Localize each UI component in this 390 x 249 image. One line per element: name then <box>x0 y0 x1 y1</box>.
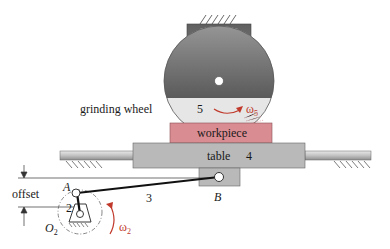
grinding-wheel <box>160 20 280 136</box>
pin-b-label: B <box>214 191 221 203</box>
omega5-subscript: 5 <box>254 109 258 118</box>
guide-rod-right <box>305 151 371 160</box>
table-label: table <box>207 150 230 162</box>
omega5-symbol: ω <box>246 102 254 116</box>
wheel-hole <box>215 77 224 86</box>
grinding-wheel-label: grinding wheel <box>80 103 152 115</box>
wheel-number-label: 5 <box>197 103 203 115</box>
pin-a <box>72 189 80 197</box>
guide-rod-left <box>60 151 134 160</box>
omega2-symbol: ω <box>119 220 127 234</box>
workpiece-label: workpiece <box>197 127 247 139</box>
ground-hatch-right <box>334 161 370 168</box>
o2-label: O2 <box>45 222 58 237</box>
omega2-label: ω2 <box>119 221 131 236</box>
pin-b <box>215 173 224 182</box>
ground-hatch-left <box>66 161 102 168</box>
link3-label: 3 <box>146 192 152 204</box>
offset-label: offset <box>12 188 39 200</box>
o2-symbol: O <box>45 221 54 235</box>
omega2-subscript: 2 <box>127 227 131 236</box>
ground-hatch-top <box>200 15 236 24</box>
crank-number-label: 2 <box>66 202 72 214</box>
pin-a-label: A <box>63 181 70 193</box>
o2-subscript: 2 <box>54 228 58 237</box>
grinder-mechanism-diagram <box>0 0 390 249</box>
pin-o2 <box>77 211 84 218</box>
omega5-label: ω5 <box>246 103 258 118</box>
omega2-arrow-icon <box>106 202 114 234</box>
table-number-label: 4 <box>246 150 252 162</box>
